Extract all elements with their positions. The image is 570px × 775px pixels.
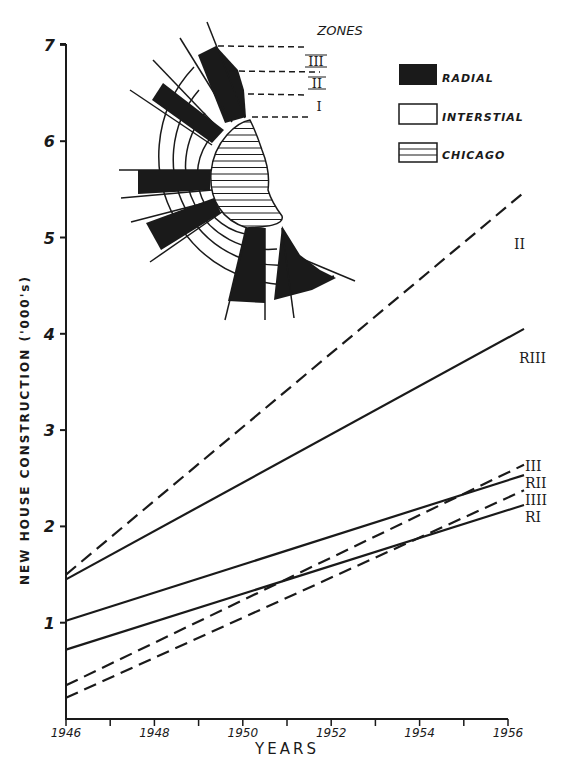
zones-inset: ZONES III II I <box>119 22 363 320</box>
x-tick-label: 1950 <box>228 726 259 740</box>
series-line <box>66 490 524 698</box>
zone-labels: III II I <box>305 54 327 114</box>
series-line <box>66 329 524 579</box>
series-labels: IIRIIIIIIRIIIIIIRI <box>514 236 547 525</box>
series-label: IIII <box>525 492 547 508</box>
y-tick-label: 1 <box>44 614 55 633</box>
series-line <box>66 475 524 621</box>
series-label: RI <box>525 509 541 525</box>
zones-title: ZONES <box>316 23 362 38</box>
legend-swatch-interstitial <box>399 104 437 124</box>
y-tick-label: 2 <box>44 517 55 536</box>
y-tick-label: 6 <box>44 132 55 151</box>
x-tick-label: 1954 <box>404 726 435 740</box>
legend: RADIAL INTERSTIAL CHICAGO <box>399 64 524 162</box>
series-label: RII <box>525 475 547 491</box>
x-axis: 194619481950195219541956 <box>51 719 524 740</box>
y-axis: 1234567 <box>43 36 66 719</box>
legend-label-chicago: CHICAGO <box>442 149 505 162</box>
series-label: III <box>525 458 542 474</box>
x-axis-title: YEARS <box>254 740 319 758</box>
y-tick-label: 7 <box>44 36 56 55</box>
legend-swatch-radial <box>399 64 437 85</box>
x-tick-label: 1946 <box>51 726 82 740</box>
legend-swatch-chicago <box>399 143 437 162</box>
x-tick-label: 1948 <box>139 726 170 740</box>
y-tick-label: 4 <box>43 325 55 344</box>
legend-label-interstitial: INTERSTIAL <box>442 111 524 124</box>
y-tick-label: 5 <box>44 229 55 248</box>
chart-canvas: 1234567 194619481950195219541956 NEW HOU… <box>0 0 570 775</box>
zone-label-i: I <box>316 99 321 114</box>
series-label: II <box>514 236 525 252</box>
y-tick-label: 3 <box>44 421 55 440</box>
x-tick-label: 1952 <box>316 726 347 740</box>
series-label: RIII <box>519 350 546 366</box>
y-axis-title: NEW HOUSE CONSTRUCTION ('000's) <box>18 275 32 585</box>
legend-label-radial: RADIAL <box>442 72 494 85</box>
x-tick-label: 1956 <box>493 726 524 740</box>
series-line <box>66 505 524 650</box>
